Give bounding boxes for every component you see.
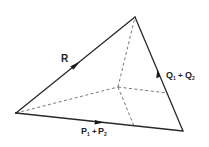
- dashed-line-o-bc: [118, 87, 167, 93]
- label-q2: Q: [185, 70, 192, 80]
- label-p-plus: +: [92, 127, 97, 136]
- labels: R Q 1 + Q 2 P 1 + P 2: [61, 53, 195, 137]
- dashed-line-o-ac: [118, 87, 134, 126]
- label-q-plus: +: [178, 71, 183, 80]
- dashed-lines: [16, 17, 167, 126]
- label-r: R: [61, 53, 69, 64]
- arrowheads: [71, 62, 161, 125]
- arrow-p-icon: [95, 120, 105, 125]
- label-q2-sub: 2: [192, 75, 195, 81]
- label-q1-plus-q2: Q 1 + Q 2: [166, 70, 195, 81]
- label-p1-plus-p2: P 1 + P 2: [81, 126, 107, 137]
- label-p2-sub: 2: [104, 131, 107, 137]
- label-q1-sub: 1: [173, 75, 176, 81]
- label-q1: Q: [166, 70, 173, 80]
- force-diagram: R Q 1 + Q 2 P 1 + P 2: [0, 0, 209, 147]
- label-p1-sub: 1: [87, 131, 90, 137]
- vertex-a: [15, 112, 17, 114]
- dashed-line-o-b: [118, 17, 135, 87]
